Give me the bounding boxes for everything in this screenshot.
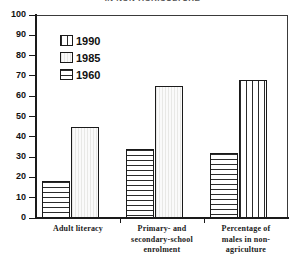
y-axis-tick <box>29 197 36 198</box>
x-axis-category-line: secondary-school <box>117 235 207 246</box>
y-axis-tick <box>29 15 36 16</box>
legend-label: 1985 <box>76 52 100 64</box>
bar-1960-group-2 <box>126 149 154 218</box>
x-axis-category-line: males in non- <box>201 235 291 246</box>
x-axis-category-line: enrolment <box>117 245 207 256</box>
y-axis-tick-label: 40 <box>0 132 26 141</box>
y-axis-tick <box>29 218 36 219</box>
x-axis-category-label: Percentage ofmales in non-agriculture <box>201 224 291 256</box>
legend-item-1990: 1990 <box>60 32 100 49</box>
x-axis-category-label: Primary- andsecondary-schoolenrolment <box>117 224 207 256</box>
y-axis-tick-label: 60 <box>0 91 26 100</box>
bar-1985-group-1 <box>71 127 99 218</box>
bar-1985-group-2 <box>155 86 183 218</box>
y-axis-tick-label: 0 <box>0 213 26 222</box>
y-axis-tick-label: 30 <box>0 152 26 161</box>
y-axis-tick <box>29 136 36 137</box>
bar-1990-group-3 <box>239 80 267 218</box>
y-axis-tick-label: 100 <box>0 10 26 19</box>
x-axis-category-line: agriculture <box>201 245 291 256</box>
x-axis-category-label: Adult literacy <box>33 224 123 235</box>
y-axis-tick <box>29 75 36 76</box>
y-axis-tick <box>29 55 36 56</box>
x-axis-group-tick <box>204 219 205 223</box>
y-axis-tick <box>29 177 36 178</box>
bar-1960-group-1 <box>42 181 70 218</box>
legend-item-1985: 1985 <box>60 49 100 66</box>
x-axis-category-line: Primary- and <box>117 224 207 235</box>
y-axis-tick-label: 10 <box>0 193 26 202</box>
y-axis-tick <box>29 35 36 36</box>
legend-label: 1960 <box>76 69 100 81</box>
legend-swatch-icon <box>60 35 73 46</box>
x-axis-group-tick <box>120 219 121 223</box>
y-axis-tick-label: 50 <box>0 112 26 121</box>
chart-title: IN NON-AGRICULTURE <box>0 0 305 3</box>
bar-1960-group-3 <box>210 153 238 218</box>
y-axis-tick <box>29 96 36 97</box>
legend-swatch-icon <box>60 69 73 80</box>
y-axis-tick-label: 70 <box>0 71 26 80</box>
y-axis-tick-label: 90 <box>0 30 26 39</box>
x-axis-category-line: Adult literacy <box>33 224 123 235</box>
legend-label: 1990 <box>76 35 100 47</box>
y-axis-tick-label: 20 <box>0 172 26 181</box>
x-axis-category-line: Percentage of <box>201 224 291 235</box>
y-axis-tick <box>29 116 36 117</box>
legend-swatch-icon <box>60 52 73 63</box>
y-axis-tick-label: 80 <box>0 51 26 60</box>
chart-legend: 199019851960 <box>60 32 100 83</box>
legend-item-1960: 1960 <box>60 66 100 83</box>
y-axis-tick <box>29 157 36 158</box>
